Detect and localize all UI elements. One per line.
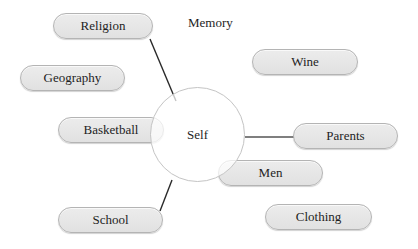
connector-religion <box>150 39 176 101</box>
connector-school <box>160 180 172 211</box>
node-label: Geography <box>44 70 102 86</box>
node-label: Wine <box>291 54 319 70</box>
center-node-self[interactable]: Self <box>150 87 245 182</box>
node-label: Men <box>259 165 283 181</box>
node-parents[interactable]: Parents <box>293 123 398 149</box>
node-geography[interactable]: Geography <box>20 65 125 91</box>
node-label: Clothing <box>296 209 342 225</box>
mind-map-canvas: Religion Memory Geography Wine Basketbal… <box>0 0 418 249</box>
node-basketball[interactable]: Basketball <box>58 117 164 143</box>
node-school[interactable]: School <box>58 207 163 233</box>
node-label: School <box>92 212 128 228</box>
center-label: Self <box>187 127 208 143</box>
free-label-memory: Memory <box>188 15 233 31</box>
node-wine[interactable]: Wine <box>252 49 358 75</box>
node-clothing[interactable]: Clothing <box>265 204 372 230</box>
node-religion[interactable]: Religion <box>53 13 153 39</box>
node-label: Religion <box>81 18 126 34</box>
node-label: Basketball <box>84 122 139 138</box>
node-label: Parents <box>326 128 364 144</box>
